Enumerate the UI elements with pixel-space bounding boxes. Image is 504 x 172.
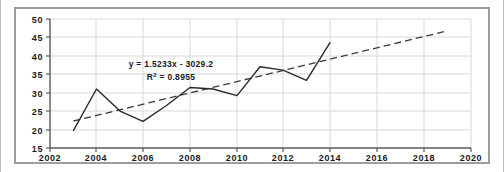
trendline-annotation: y = 1.5233x - 3029.2 R2 = 0.8955	[129, 59, 214, 82]
y-tick-label: 30	[32, 89, 43, 99]
x-tick-label: 2018	[413, 153, 435, 162]
y-tick-label: 35	[32, 70, 43, 80]
x-tick-label: 2002	[39, 153, 61, 162]
r-squared-label: R2 = 0.8955	[147, 72, 195, 82]
chart-figure: 50 45 40 35 30 25 20 15 2002 2004 2006 2…	[0, 0, 504, 172]
r-squared-value: = 0.8955	[157, 72, 195, 82]
x-tick-label: 2012	[272, 153, 294, 162]
grid-lines	[50, 19, 471, 148]
y-tick-label: 15	[32, 144, 43, 154]
y-tick-label: 40	[32, 52, 43, 62]
x-tick-label: 2006	[132, 153, 154, 162]
trendline	[74, 31, 446, 121]
x-tick-label: 2020	[460, 153, 482, 162]
x-tick-label: 2014	[319, 153, 341, 162]
y-tick-label: 50	[32, 15, 43, 25]
x-tick-label: 2010	[226, 153, 248, 162]
chart-frame: 50 45 40 35 30 25 20 15 2002 2004 2006 2…	[14, 7, 490, 164]
y-tick-label: 25	[32, 107, 43, 117]
line-chart-plot: 50 45 40 35 30 25 20 15 2002 2004 2006 2…	[16, 9, 488, 162]
axis-lines	[50, 19, 471, 148]
x-tick-label: 2016	[366, 153, 388, 162]
x-tick-label: 2008	[179, 153, 201, 162]
x-axis-tick-labels: 2002 2004 2006 2008 2010 2012 2014 2016 …	[39, 153, 482, 162]
y-axis-tick-labels: 50 45 40 35 30 25 20 15	[32, 15, 43, 154]
equation-label: y = 1.5233x - 3029.2	[129, 59, 214, 69]
y-tick-label: 20	[32, 126, 43, 136]
y-tick-label: 45	[32, 33, 43, 43]
x-tick-label: 2004	[85, 153, 107, 162]
